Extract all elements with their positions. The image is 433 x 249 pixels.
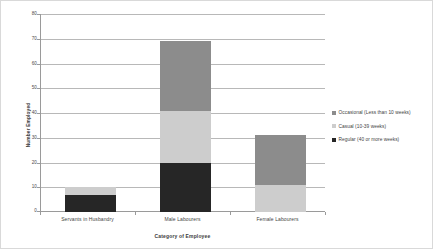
- legend-item-label: Casual (10-39 weeks): [339, 124, 387, 129]
- bar-segment-regular[interactable]: [65, 195, 116, 212]
- legend-item-casual[interactable]: Casual (10-39 weeks): [332, 124, 432, 129]
- x-axis-label-female-labourers: Female Labourers: [230, 217, 325, 223]
- y-tick-label: 80: [22, 12, 37, 17]
- bar-group-male-labourers: [160, 14, 211, 212]
- stacked-bar-chart: 80 70 60 50 40 30 20 10 0 Number Employe…: [0, 0, 433, 249]
- y-tick-label: 10: [22, 185, 37, 190]
- bar-stack: [160, 41, 211, 212]
- legend-item-regular[interactable]: Regular (40 or more weeks): [332, 137, 432, 142]
- bar-group-female-labourers: [255, 14, 306, 212]
- legend-swatch-icon: [332, 124, 336, 128]
- legend-item-label: Regular (40 or more weeks): [339, 137, 400, 142]
- bar-segment-occasional[interactable]: [255, 135, 306, 185]
- legend-item-occasional[interactable]: Occasional (Less than 10 weeks): [332, 110, 432, 115]
- bar-segment-occasional[interactable]: [160, 41, 211, 110]
- x-axis-title: Category of Employee: [40, 233, 325, 239]
- y-tick-label: 70: [22, 36, 37, 41]
- y-tick-label: 60: [22, 61, 37, 66]
- chart-legend: Occasional (Less than 10 weeks) Casual (…: [332, 110, 432, 151]
- bar-segment-casual[interactable]: [65, 187, 116, 194]
- bar-segment-casual[interactable]: [255, 185, 306, 212]
- legend-swatch-icon: [332, 138, 336, 142]
- bar-stack: [255, 135, 306, 212]
- x-axis-label-servants-in-husbandry: Servants in Husbandry: [40, 217, 135, 223]
- y-tick-label: 0: [22, 209, 37, 214]
- y-axis-title: Number Employed: [26, 102, 31, 147]
- legend-swatch-icon: [332, 111, 336, 115]
- y-tick-label: 20: [22, 160, 37, 165]
- bar-group-servants-in-husbandry: [65, 14, 116, 212]
- bar-stack: [65, 187, 116, 212]
- bar-segment-regular[interactable]: [160, 163, 211, 213]
- bar-segment-casual[interactable]: [160, 111, 211, 163]
- bars-layer: [40, 14, 325, 212]
- x-axis-label-male-labourers: Male Labourers: [135, 217, 230, 223]
- y-tick-label: 50: [22, 86, 37, 91]
- legend-item-label: Occasional (Less than 10 weeks): [339, 110, 411, 115]
